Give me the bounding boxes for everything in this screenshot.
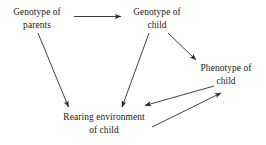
node-genotype-of-child: Genotype of child bbox=[124, 6, 190, 31]
node-rearing-environment-of-child: Rearing environment of child bbox=[52, 111, 156, 136]
node-genotype-of-parents-line1: Genotype of bbox=[4, 6, 70, 19]
arrow-rearing-environment-to-phenotype bbox=[152, 93, 221, 127]
node-phenotype-of-child-line2: child bbox=[191, 75, 261, 88]
node-genotype-of-child-line1: Genotype of bbox=[124, 6, 190, 19]
node-phenotype-of-child-line1: Phenotype of bbox=[191, 62, 261, 75]
node-phenotype-of-child: Phenotype of child bbox=[191, 62, 261, 87]
node-genotype-of-child-line2: child bbox=[124, 19, 190, 32]
arrow-parents-to-rearing-environment bbox=[38, 33, 69, 107]
node-rearing-environment-of-child-line2: of child bbox=[52, 124, 156, 137]
arrow-genotype-child-to-phenotype bbox=[168, 33, 196, 60]
arrow-phenotype-to-rearing-environment bbox=[145, 86, 214, 106]
node-genotype-of-parents-line2: parents bbox=[4, 19, 70, 32]
node-genotype-of-parents: Genotype of parents bbox=[4, 6, 70, 31]
arrow-genotype-child-to-rearing-environment bbox=[122, 33, 149, 107]
node-rearing-environment-of-child-line1: Rearing environment bbox=[52, 111, 156, 124]
diagram-canvas: Genotype of parents Genotype of child Ph… bbox=[0, 0, 266, 145]
